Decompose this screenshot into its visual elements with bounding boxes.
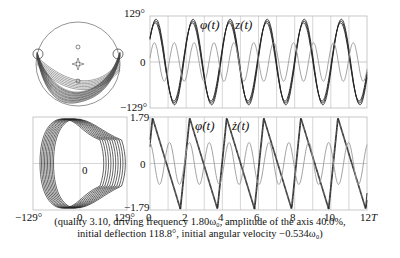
top-yzero-label: 0 bbox=[140, 57, 146, 68]
zdot-label: ż(t) bbox=[232, 120, 249, 131]
phi-label: φ(t) bbox=[200, 19, 219, 30]
caption-line-1: (quality 3.10, driving frequency 1.80ω₀,… bbox=[0, 216, 400, 228]
top-ymax-label: 129° bbox=[124, 8, 145, 19]
caption-line-2: initial deflection 118.8°, initial angul… bbox=[0, 228, 400, 240]
z-label: z(t) bbox=[235, 19, 252, 30]
bot-yzero-label: 0 bbox=[140, 159, 146, 170]
center-star-icon bbox=[72, 58, 84, 70]
phase-center-label: 0 bbox=[82, 165, 88, 176]
figure-caption: (quality 3.10, driving frequency 1.80ω₀,… bbox=[0, 216, 400, 240]
bot-ymax-label: 1.79 bbox=[130, 112, 149, 123]
pivot-bottom-icon bbox=[76, 79, 80, 83]
phidot-label: φ̇(t) bbox=[195, 120, 214, 131]
pivot-top-icon bbox=[76, 45, 80, 49]
